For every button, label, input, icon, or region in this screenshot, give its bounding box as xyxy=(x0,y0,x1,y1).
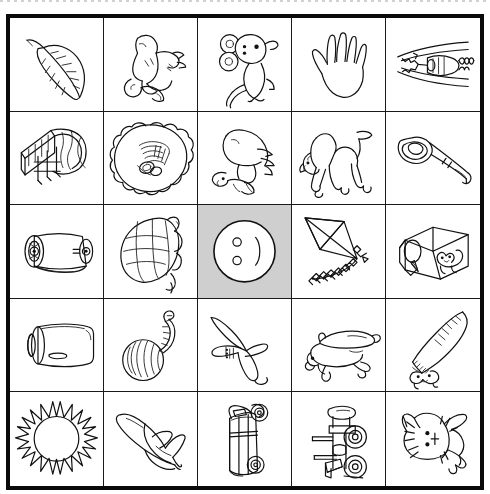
truck-icon xyxy=(198,392,291,486)
turtle-icon xyxy=(104,205,197,298)
scan-edge-artifact xyxy=(0,0,490,2)
mouse-icon xyxy=(198,18,291,111)
grid-cell-zipper[interactable] xyxy=(386,18,480,112)
goat-kid-icon xyxy=(198,112,291,205)
grid-cell-cat[interactable] xyxy=(386,392,480,486)
key-icon xyxy=(386,112,480,205)
dog-icon xyxy=(292,299,385,392)
grid-cell-banana[interactable] xyxy=(104,392,198,486)
grid-cell-tractor[interactable] xyxy=(292,392,386,486)
hand-icon xyxy=(292,18,385,111)
camel-icon xyxy=(292,112,385,205)
airplane-icon xyxy=(198,299,291,392)
paper-roll-icon xyxy=(10,205,103,298)
grid-cell-jar[interactable] xyxy=(10,299,104,393)
tractor-icon xyxy=(292,392,385,486)
saw-icon xyxy=(386,299,480,392)
grid-cell-nest[interactable] xyxy=(104,112,198,206)
goat-icon xyxy=(104,18,197,111)
grid-cell-airplane[interactable] xyxy=(198,299,292,393)
grid-cell-goat[interactable] xyxy=(104,18,198,112)
grid-cell-sun[interactable] xyxy=(10,392,104,486)
grid-cell-key[interactable] xyxy=(386,112,480,206)
grid-cell-doghouse[interactable] xyxy=(386,205,480,299)
grid-cell-button[interactable] xyxy=(198,205,292,299)
kite-icon xyxy=(292,205,385,298)
picture-grid xyxy=(6,14,484,490)
doghouse-icon xyxy=(386,205,480,298)
grid-cell-goat-kid[interactable] xyxy=(198,112,292,206)
grid-cell-yarn-ball[interactable] xyxy=(104,299,198,393)
grid-cell-saw[interactable] xyxy=(386,299,480,393)
leaf-icon xyxy=(10,18,103,111)
jar-icon xyxy=(10,299,103,392)
cat-icon xyxy=(386,392,480,486)
yarn-ball-icon xyxy=(104,299,197,392)
grid-cell-truck[interactable] xyxy=(198,392,292,486)
button-icon xyxy=(198,205,291,298)
grid-cell-turtle[interactable] xyxy=(104,205,198,299)
grid-cell-gate[interactable] xyxy=(10,112,104,206)
grid-cell-mouse[interactable] xyxy=(198,18,292,112)
sun-icon xyxy=(10,392,103,486)
grid-cell-hand[interactable] xyxy=(292,18,386,112)
picture-grid-worksheet xyxy=(0,0,490,494)
grid-cell-kite[interactable] xyxy=(292,205,386,299)
grid-cell-paper-roll[interactable] xyxy=(10,205,104,299)
grid-cell-leaf[interactable] xyxy=(10,18,104,112)
grid-cell-camel[interactable] xyxy=(292,112,386,206)
nest-icon xyxy=(104,112,197,205)
gate-icon xyxy=(10,112,103,205)
banana-icon xyxy=(104,392,197,486)
grid-cell-dog[interactable] xyxy=(292,299,386,393)
zipper-icon xyxy=(386,18,480,111)
